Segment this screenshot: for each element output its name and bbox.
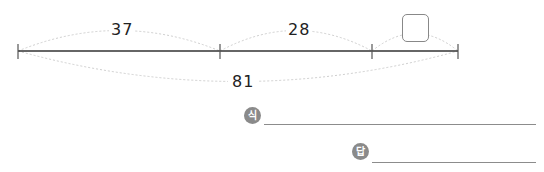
segment-label-1: 37 <box>109 20 135 39</box>
answer-input-line[interactable] <box>372 162 536 163</box>
number-line-diagram: 37 28 81 <box>0 0 544 100</box>
total-label: 81 <box>228 72 258 91</box>
segment-label-2: 28 <box>286 20 312 39</box>
unknown-answer-box[interactable] <box>402 14 429 42</box>
number-line-svg <box>0 0 544 100</box>
expression-input-line[interactable] <box>264 124 536 125</box>
expression-badge-icon: 식 <box>244 107 261 124</box>
answer-badge-icon: 답 <box>352 143 369 160</box>
